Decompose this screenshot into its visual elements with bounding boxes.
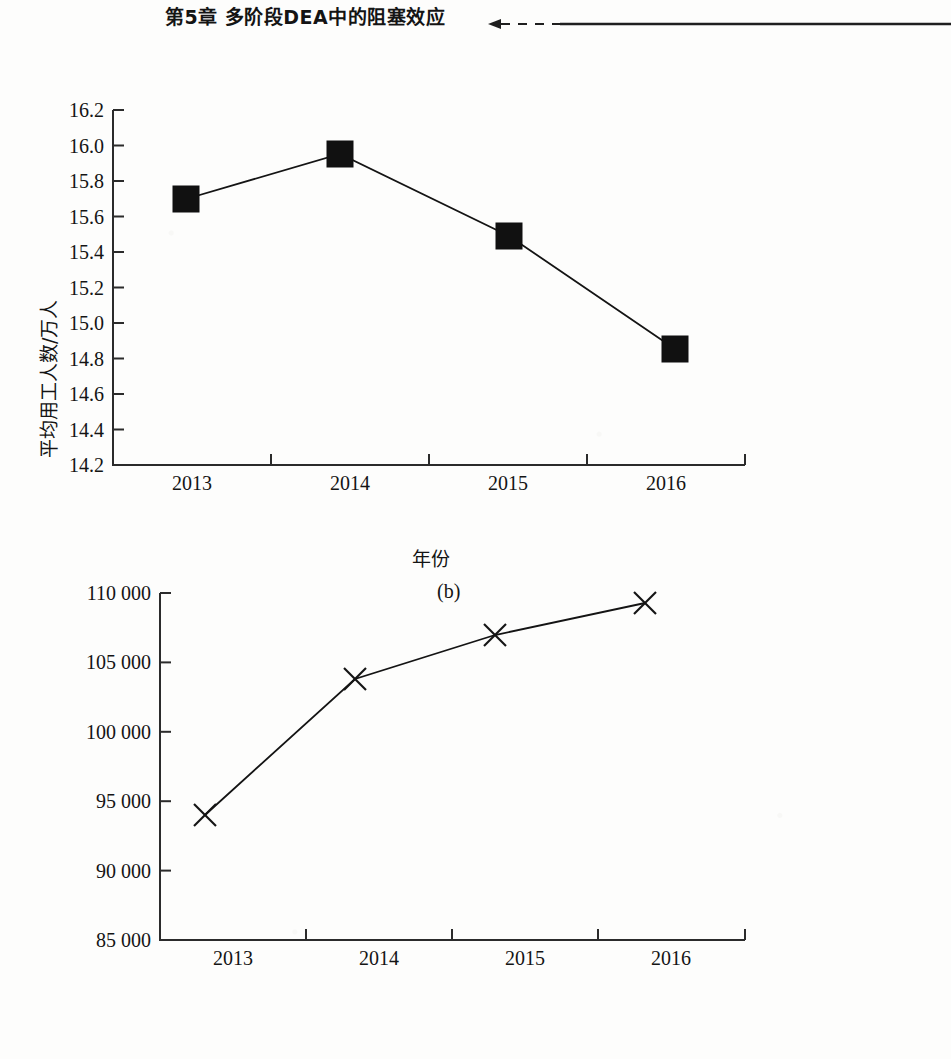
figure-b: 平均用工人数/万人 16.2 16.0 [0, 60, 951, 550]
figure-c: 服装生产数量/万件 110 000 105 000 100 000 95 000… [0, 552, 951, 1052]
figure-b-xtick-label: 2014 [330, 472, 370, 494]
left-arrow-dashed-leader-icon [488, 18, 951, 30]
figure-b-xtick-label: 2016 [646, 472, 686, 494]
figure-b-y-ticks [113, 110, 124, 465]
data-point-marker [634, 592, 656, 614]
figure-b-ytick-label: 14.8 [69, 348, 104, 370]
data-point-marker [173, 186, 199, 212]
figure-c-plot: 110 000 105 000 100 000 95 000 90 000 85… [0, 552, 951, 1002]
figure-b-plot: 16.2 16.0 15.8 15.6 15.4 15.2 15.0 14.8 … [0, 60, 951, 500]
figure-b-xtick-label: 2013 [172, 472, 212, 494]
figure-c-ytick-label: 95 000 [96, 790, 151, 812]
figure-c-x-ticks [160, 929, 745, 940]
figure-b-y-axis-title: 平均用工人数/万人 [34, 300, 61, 458]
figure-b-ytick-label: 14.4 [69, 419, 104, 441]
figure-c-ytick-label: 110 000 [87, 582, 151, 604]
chapter-header-title: 第5章 多阶段DEA中的阻塞效应 [165, 2, 445, 29]
figure-c-ytick-label: 85 000 [96, 929, 151, 951]
figure-c-series-line [205, 603, 645, 815]
figure-b-xtick-label: 2015 [488, 472, 528, 494]
figure-b-ytick-label: 15.8 [69, 170, 104, 192]
data-point-marker [194, 804, 216, 826]
figure-c-xtick-label: 2016 [651, 947, 691, 969]
figure-c-ytick-label: 90 000 [96, 860, 151, 882]
data-point-marker [344, 668, 366, 690]
figure-b-data-markers [173, 141, 688, 362]
figure-b-ytick-label: 15.2 [69, 277, 104, 299]
figure-b-ytick-label: 14.2 [69, 454, 104, 476]
page-canvas: 第5章 多阶段DEA中的阻塞效应 平均用工人数/万人 [0, 0, 951, 1059]
data-point-marker [496, 223, 522, 249]
figure-b-ytick-label: 14.6 [69, 383, 104, 405]
figure-b-series-line [186, 154, 675, 349]
data-point-marker [484, 624, 506, 646]
data-point-marker [327, 141, 353, 167]
figure-c-xtick-label: 2014 [359, 947, 399, 969]
figure-b-ytick-label: 15.6 [69, 206, 104, 228]
figure-b-ytick-label: 16.2 [69, 99, 104, 121]
figure-b-x-ticks [113, 454, 745, 465]
figure-c-ytick-label: 100 000 [86, 721, 151, 743]
figure-b-ytick-label: 15.4 [69, 241, 104, 263]
figure-c-y-ticks [160, 593, 171, 940]
figure-c-data-markers [194, 592, 656, 826]
figure-c-ytick-label: 105 000 [86, 651, 151, 673]
figure-c-xtick-label: 2013 [213, 947, 253, 969]
figure-b-ytick-label: 15.0 [69, 312, 104, 334]
figure-c-xtick-label: 2015 [505, 947, 545, 969]
figure-b-ytick-label: 16.0 [69, 135, 104, 157]
running-header: 第5章 多阶段DEA中的阻塞效应 [0, 0, 951, 46]
data-point-marker [662, 336, 688, 362]
